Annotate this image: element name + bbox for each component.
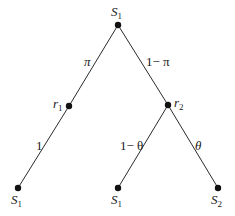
label-leaf-mid: S1: [111, 192, 122, 209]
label-root: S1: [111, 4, 122, 21]
node-r1: [66, 103, 72, 109]
edge-r1-leaf-left: [18, 106, 69, 188]
label-leaf-right: S2: [211, 192, 222, 209]
node-root: [115, 22, 121, 28]
edge-label-one-minus-pi: 1− π: [146, 54, 170, 69]
label-leaf-left: S1: [11, 192, 22, 209]
probability-tree-diagram: S1 r1 r2 S1 S1 S2 π 1− π 1 1− θ θ: [0, 0, 235, 216]
label-r2: r2: [174, 95, 184, 112]
label-r1: r1: [53, 96, 63, 113]
edge-label-pi: π: [84, 54, 91, 69]
edge-label-theta: θ: [195, 138, 202, 153]
node-leaf-left: [15, 185, 21, 191]
edge-label-one: 1: [36, 138, 43, 153]
edge-r2-leaf-right: [168, 105, 218, 188]
node-r2: [165, 102, 171, 108]
edge-label-one-minus-theta: 1− θ: [120, 138, 143, 153]
node-leaf-mid: [115, 185, 121, 191]
node-leaf-right: [215, 185, 221, 191]
edge-root-r1: [69, 25, 118, 106]
